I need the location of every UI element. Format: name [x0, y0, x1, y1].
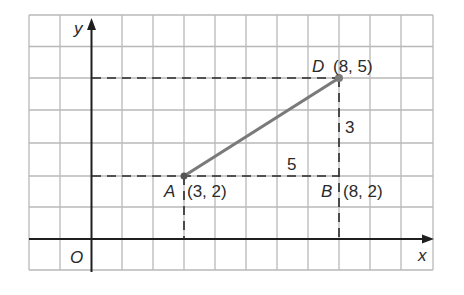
point-a-name: A — [164, 183, 175, 200]
point-a-coords: (3, 2) — [187, 183, 227, 200]
point-d-coords: (8, 5) — [333, 58, 373, 75]
point-b-coords: (8, 2) — [343, 183, 383, 200]
origin-label: O — [70, 249, 83, 266]
point-a — [181, 173, 188, 180]
length-ab-label: 5 — [287, 156, 296, 173]
y-axis-label: y — [74, 20, 83, 37]
x-axis-label: x — [418, 247, 427, 264]
x-axis-arrow-icon — [422, 235, 434, 244]
y-axis-arrow-icon — [87, 18, 96, 30]
segment-ad — [184, 78, 339, 176]
grid-lines — [29, 15, 433, 270]
point-b-name: B — [321, 183, 332, 200]
point-d-name: D — [312, 58, 324, 75]
length-bd-label: 3 — [345, 119, 354, 136]
